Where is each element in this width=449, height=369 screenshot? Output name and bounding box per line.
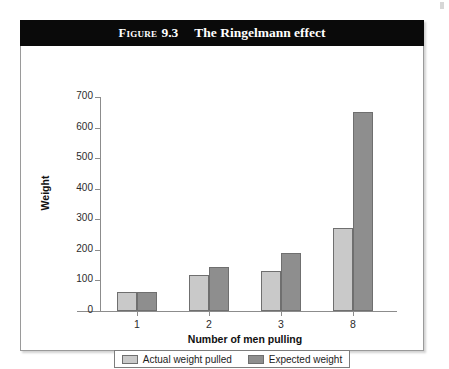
bar-expected-weight-3 [281,253,301,311]
x-tick-mark [281,311,282,316]
x-tick-label: 2 [189,318,229,330]
y-tick-mark [95,128,100,129]
x-tick-mark [353,311,354,316]
figure-caption: The Ringelmann effect [194,25,325,41]
legend-entry-expected: Expected weight [248,354,342,365]
y-tick-label: 200 [51,243,93,254]
x-tick-mark [137,311,138,316]
y-axis-title: Weight [39,163,51,223]
y-tick-mark [95,219,100,220]
y-tick-label: 700 [51,90,93,101]
y-tick-mark [95,189,100,190]
bar-actual-weight-pulled-8 [333,228,353,311]
x-axis-line [77,311,397,312]
y-tick-mark [95,97,100,98]
figure-number: 9.3 [161,25,178,41]
figure-frame: Figure 9.3 The Ringelmann effect Weight … [20,20,424,351]
y-tick-mark [95,280,100,281]
y-tick-mark [95,158,100,159]
bar-expected-weight-8 [353,112,373,311]
legend-label-expected: Expected weight [269,354,342,365]
x-tick-label: 1 [117,318,157,330]
legend-label-actual: Actual weight pulled [143,354,232,365]
bar-chart: Weight 7006005004003002001000 1238 Numbe… [21,47,423,350]
figure-title-bar: Figure 9.3 The Ringelmann effect [20,20,424,46]
y-tick-label: 400 [51,182,93,193]
x-tick-mark [209,311,210,316]
bar-actual-weight-pulled-3 [261,271,281,311]
y-tick-label: 0 [51,304,93,315]
x-axis-title: Number of men pulling [101,333,389,345]
y-tick-label: 100 [51,273,93,284]
x-tick-label: 8 [333,318,373,330]
bar-expected-weight-1 [137,292,157,311]
bar-actual-weight-pulled-2 [189,275,209,311]
bar-expected-weight-2 [209,267,229,311]
x-tick-label: 3 [261,318,301,330]
bar-actual-weight-pulled-1 [117,292,137,311]
scan-artifact [440,2,444,9]
y-tick-label: 500 [51,151,93,162]
legend-swatch-actual [122,355,138,364]
figure-label: Figure [118,26,157,41]
y-tick-label: 600 [51,121,93,132]
plot-region [101,97,389,311]
y-tick-mark [95,311,100,312]
legend-entry-actual: Actual weight pulled [122,354,232,365]
y-tick-mark [95,250,100,251]
chart-legend: Actual weight pulledExpected weight [114,350,350,368]
legend-swatch-expected [248,355,264,364]
y-tick-label: 300 [51,212,93,223]
